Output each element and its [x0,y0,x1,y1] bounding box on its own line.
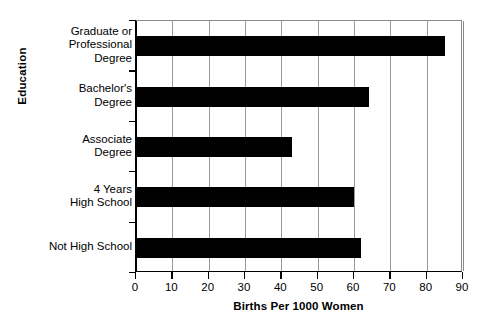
y-axis-category-line: Professional [0,38,132,52]
y-tick [129,20,136,21]
y-axis-category-line: 4 Years [0,183,132,197]
y-tick [129,222,136,223]
gridline-80 [427,21,428,271]
y-axis-category-line: Not High School [0,240,132,254]
y-axis-category-label: AssociateDegree [0,133,132,160]
x-tick-label-70: 70 [369,280,409,295]
x-tick-label-10: 10 [151,280,191,295]
gridline-50 [318,21,319,271]
x-tick-label-60: 60 [333,280,373,295]
x-tick-20 [208,272,209,279]
y-axis-category-label: Not High School [0,240,132,254]
x-tick-label-30: 30 [224,280,264,295]
x-tick-80 [426,272,427,279]
x-tick-label-40: 40 [260,280,300,295]
y-axis-category-label: Bachelor'sDegree [0,82,132,109]
x-tick-90 [462,272,463,279]
x-axis-title: Births Per 1000 Women [135,300,462,312]
x-tick-label-20: 20 [188,280,228,295]
x-tick-label-90: 90 [442,280,482,295]
bar [136,187,354,207]
y-axis-category-line: Associate [0,133,132,147]
y-axis-category-line: Degree [0,96,132,110]
y-axis-category-label: Graduate orProfessionalDegree [0,25,132,66]
x-tick-30 [244,272,245,279]
bar [136,36,445,56]
y-axis-category-line: Bachelor's [0,82,132,96]
x-tick-50 [317,272,318,279]
y-tick [129,171,136,172]
bar [136,137,292,157]
gridline-90 [463,21,464,271]
gridline-60 [354,21,355,271]
x-tick-label-80: 80 [406,280,446,295]
bar [136,87,369,107]
bar-chart: Education 0102030405060708090 Graduate o… [0,0,495,325]
y-axis-category-line: Degree [0,146,132,160]
bar [136,238,361,258]
plot-area [135,20,462,272]
y-tick [129,121,136,122]
x-tick-60 [353,272,354,279]
y-axis-category-label: 4 YearsHigh School [0,183,132,210]
x-tick-label-0: 0 [115,280,155,295]
x-tick-label-50: 50 [297,280,337,295]
gridline-70 [390,21,391,271]
x-tick-40 [280,272,281,279]
y-axis-category-line: Graduate or [0,25,132,39]
y-tick [129,70,136,71]
x-tick-10 [171,272,172,279]
y-axis-category-line: Degree [0,52,132,66]
x-tick-70 [389,272,390,279]
y-axis-category-line: High School [0,196,132,210]
y-tick [129,272,136,273]
